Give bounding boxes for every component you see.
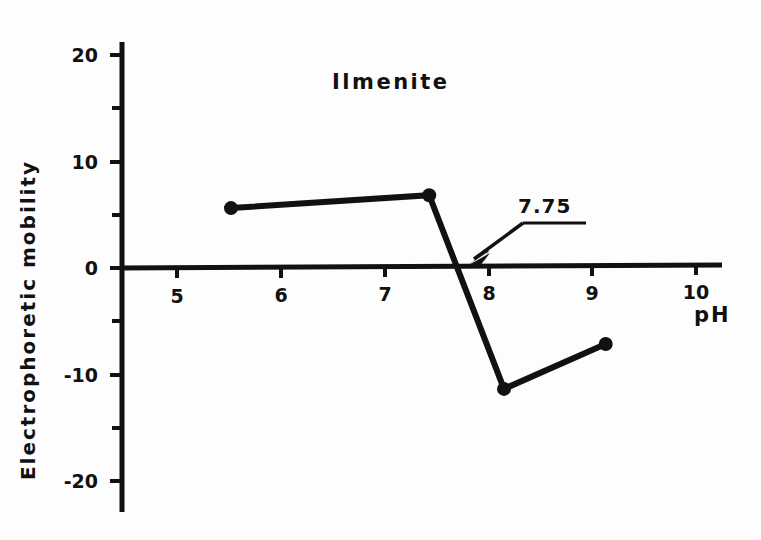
- y-tick-label-10: 10: [58, 151, 98, 173]
- x-tick-label-10: 10: [683, 281, 709, 303]
- x-tick-label-8: 8: [482, 282, 495, 304]
- x-tick-label-5: 5: [170, 285, 183, 307]
- x-tick-label-7: 7: [378, 283, 391, 305]
- y-tick-label-0: 0: [58, 257, 98, 279]
- x-axis-title: pH: [694, 303, 731, 327]
- data-point: [497, 382, 511, 396]
- x-tick-label-9: 9: [585, 282, 598, 304]
- x-tick-label-6: 6: [274, 284, 287, 306]
- y-tick-label-neg20: -20: [48, 470, 98, 492]
- x-axis-line: [122, 265, 722, 268]
- data-point: [599, 337, 613, 351]
- chart-title: Ilmenite: [332, 70, 450, 94]
- y-tick-label-neg10: -10: [48, 364, 98, 386]
- chart-figure: Ilmenite Electrophoretic mobility pH 7.7…: [0, 0, 761, 540]
- data-point: [422, 188, 436, 202]
- iep-annotation-label: 7.75: [518, 194, 571, 218]
- annotation-arrow-icon: [467, 223, 586, 267]
- y-axis-title-text: Electrophoretic mobility: [16, 160, 40, 480]
- data-point: [224, 201, 238, 215]
- y-tick-label-20: 20: [58, 44, 98, 66]
- y-axis-title: Electrophoretic mobility: [8, 155, 48, 485]
